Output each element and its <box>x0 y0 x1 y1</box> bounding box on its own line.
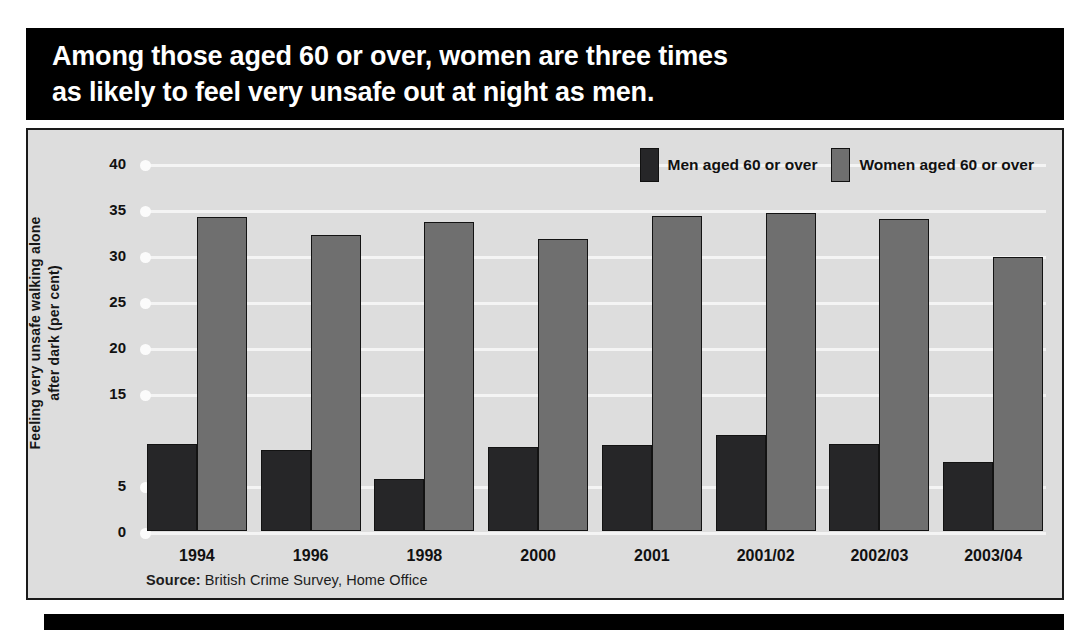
bottom-bar <box>44 614 1064 630</box>
chart-page: Among those aged 60 or over, women are t… <box>0 0 1091 630</box>
legend-swatch <box>831 148 850 182</box>
title-banner: Among those aged 60 or over, women are t… <box>26 28 1064 120</box>
bar <box>374 479 424 531</box>
bar <box>652 216 702 531</box>
y-tick-label: 40 <box>80 155 126 172</box>
y-tick-label: 30 <box>80 247 126 264</box>
legend-item: Men aged 60 or over <box>640 148 818 182</box>
page-title: Among those aged 60 or over, women are t… <box>52 38 1038 110</box>
legend-label: Men aged 60 or over <box>668 156 818 174</box>
bar <box>488 447 538 531</box>
bar-group <box>147 153 247 531</box>
bar <box>147 444 197 531</box>
bar-group <box>374 153 474 531</box>
bars-layer <box>140 130 1046 598</box>
y-tick-label: 35 <box>80 201 126 218</box>
bar <box>197 217 247 531</box>
chart-panel: Feeling very unsafe walking alone after … <box>26 128 1064 600</box>
bar <box>943 462 993 531</box>
y-tick-label: 15 <box>80 385 126 402</box>
bar <box>993 257 1043 531</box>
bar <box>879 219 929 531</box>
bar <box>829 444 879 531</box>
bar <box>424 222 474 531</box>
bar-group <box>488 153 588 531</box>
bar <box>716 435 766 531</box>
bar <box>766 213 816 531</box>
y-tick-label: 0 <box>80 523 126 540</box>
bar-group <box>943 153 1043 531</box>
bar-group <box>261 153 361 531</box>
plot-area: 05152025303540 Men aged 60 or overWomen … <box>140 130 1046 598</box>
y-tick-label: 5 <box>80 477 126 494</box>
legend-swatch <box>640 148 659 182</box>
bar <box>261 450 311 531</box>
bar-group <box>602 153 702 531</box>
legend-label: Women aged 60 or over <box>859 156 1034 174</box>
legend-item: Women aged 60 or over <box>831 148 1034 182</box>
chart-legend: Men aged 60 or overWomen aged 60 or over <box>640 148 1034 182</box>
bar-group <box>716 153 816 531</box>
bar <box>538 239 588 531</box>
bar <box>311 235 361 531</box>
y-axis-title: Feeling very unsafe walking alone after … <box>26 188 66 478</box>
bar-group <box>829 153 929 531</box>
y-tick-label: 20 <box>80 339 126 356</box>
y-tick-label: 25 <box>80 293 126 310</box>
bar <box>602 445 652 531</box>
